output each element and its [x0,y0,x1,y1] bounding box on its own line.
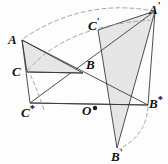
label-A: A [8,31,17,46]
label-A-prime-mark: ' [158,0,161,11]
label-A-prime-text: A [149,2,158,17]
figure-canvas [0,0,168,164]
geometry-figure: A B C A' B' C' B* C* O [0,0,168,164]
label-C-prime-text: C [88,18,97,33]
center-point-O [93,106,97,110]
label-B-prime-text: B [111,149,120,164]
label-C-prime-mark: ' [97,16,100,27]
label-C-text: C [12,64,21,79]
label-B: B [86,56,95,71]
label-B-star-text: B [149,96,158,111]
label-B-text: B [86,57,95,72]
label-B-prime-mark: ' [120,147,123,158]
label-C-star: C* [21,104,35,119]
label-B-prime: B' [111,148,122,163]
label-O: O [82,102,91,117]
label-B-star: B* [149,95,163,110]
label-A-text: A [8,32,17,47]
label-C: C [12,63,21,78]
label-C-prime: C' [88,17,99,32]
label-C-star-text: C [21,105,30,120]
label-A-prime: A' [149,1,160,16]
label-B-star-mark: * [158,94,163,105]
label-O-text: O [82,103,91,118]
label-C-star-mark: * [30,103,35,114]
